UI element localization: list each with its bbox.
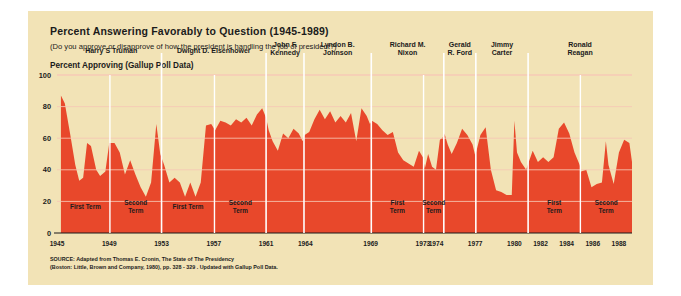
x-tick-1961: 1961: [259, 240, 274, 247]
x-tick-1957: 1957: [206, 240, 221, 247]
x-tick-1953: 1953: [154, 240, 169, 247]
x-tick-1977: 1977: [468, 240, 483, 247]
x-tick-1949: 1949: [102, 240, 117, 247]
term-label-7-1: Second: [595, 199, 618, 206]
x-tick-1984: 1984: [559, 240, 574, 247]
y-tick-0: 0: [47, 229, 51, 238]
x-tick-1986: 1986: [585, 240, 600, 247]
term-label-4-0: First: [390, 199, 405, 206]
term-label-7-1-line2: Term: [599, 207, 614, 214]
president-label-7: Ronald: [568, 41, 592, 48]
president-label-1: Dwight D. Eisenhower: [177, 47, 251, 55]
term-label-0-0: First Term: [70, 203, 101, 210]
term-label-1-1-line2: Term: [233, 207, 248, 214]
x-tick-1964: 1964: [298, 240, 313, 247]
term-label-1-1: Second: [229, 199, 252, 206]
y-tick-100: 100: [39, 71, 51, 80]
x-tick-1980: 1980: [507, 240, 522, 247]
term-label-7-0: First: [547, 199, 562, 206]
term-label-1-0: First Term: [173, 203, 204, 210]
y-tick-80: 80: [43, 102, 51, 111]
president-label-4: Richard M.: [390, 41, 426, 48]
president-label-6: Jimmy: [491, 41, 513, 49]
x-tick-1974: 1974: [429, 240, 444, 247]
term-label-0-1: Second: [124, 199, 147, 206]
approval-area-chart: 020406080100Harry S TrumanDwight D. Eise…: [28, 11, 653, 285]
y-tick-40: 40: [43, 165, 51, 174]
term-label-0-1-line2: Term: [128, 207, 143, 214]
term-label-7-0-line2: Term: [547, 207, 562, 214]
term-label-4-0-line2: Term: [390, 207, 405, 214]
x-tick-1982: 1982: [533, 240, 548, 247]
president-label-3: Lyndon B.: [321, 41, 355, 49]
x-tick-1988: 1988: [612, 240, 627, 247]
term-label-4-1-line2: Term: [426, 207, 441, 214]
president-label-5-line2: R. Ford: [448, 49, 473, 56]
president-label-6-line2: Carter: [492, 49, 513, 56]
source-line-2: (Boston: Little, Brown and Company, 1980…: [50, 263, 278, 271]
source-note: SOURCE: Adapted from Thomas E. Cronin, T…: [50, 255, 278, 272]
president-label-3-line2: Johnson: [323, 49, 352, 56]
y-tick-60: 60: [43, 134, 51, 143]
president-label-2-line2: Kennedy: [270, 49, 300, 57]
x-tick-1945: 1945: [50, 240, 65, 247]
chart-panel: Percent Answering Favorably to Question …: [28, 11, 653, 285]
y-tick-20: 20: [43, 197, 51, 206]
term-label-4-1: Second: [422, 199, 445, 206]
president-label-5: Gerald: [449, 41, 471, 48]
president-label-7-line2: Reagan: [567, 49, 592, 57]
x-tick-1969: 1969: [363, 240, 378, 247]
president-label-0: Harry S Truman: [85, 47, 137, 55]
president-label-2: John F.: [273, 41, 297, 48]
plot-area: 020406080100Harry S TrumanDwight D. Eise…: [28, 11, 653, 285]
source-line-1: SOURCE: Adapted from Thomas E. Cronin, T…: [50, 255, 278, 263]
president-label-4-line2: Nixon: [398, 49, 417, 56]
